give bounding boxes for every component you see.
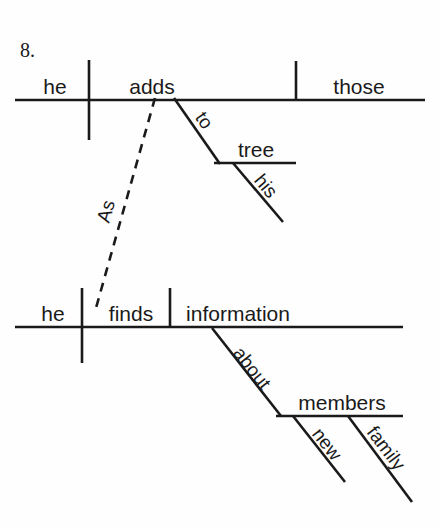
- word-about: about: [229, 343, 275, 394]
- conjunction-as-group: As: [93, 98, 155, 308]
- word-finds: finds: [109, 302, 153, 325]
- word-members: members: [298, 391, 386, 414]
- word-as: As: [93, 198, 119, 225]
- word-he-top: he: [43, 75, 66, 98]
- item-number-label: 8.: [20, 39, 35, 61]
- word-information: information: [186, 302, 290, 325]
- prep-to-slant-line: [174, 98, 220, 164]
- word-his: his: [250, 170, 282, 202]
- word-adds: adds: [129, 75, 175, 98]
- sentence-diagram-canvas: 8. he adds those to tree his: [0, 0, 441, 528]
- diagram-svg: 8. he adds those to tree his: [0, 0, 441, 528]
- prep-phrase-about-group: about members new family: [212, 328, 412, 502]
- subordinate-clause-group: he finds information: [15, 288, 403, 363]
- word-tree: tree: [238, 138, 274, 161]
- word-he-bottom: he: [41, 302, 64, 325]
- prep-phrase-to-group: to tree his: [174, 98, 296, 222]
- main-clause-group: he adds those: [15, 60, 425, 140]
- word-those: those: [333, 75, 384, 98]
